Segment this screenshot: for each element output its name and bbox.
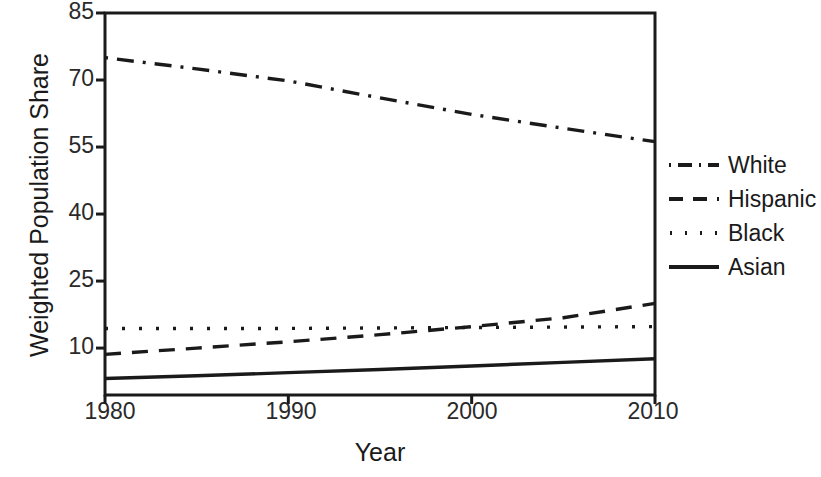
- legend-label: White: [720, 152, 787, 179]
- legend-label: Black: [720, 220, 784, 247]
- series-line-black: [105, 327, 655, 329]
- legend-swatch-dash-dot: [668, 155, 720, 175]
- series-line-white: [105, 58, 655, 142]
- chart-figure: Weighted Population Share Year 85 70 55 …: [0, 0, 821, 477]
- legend-item-asian: Asian: [668, 250, 818, 284]
- data-series-group: [105, 58, 655, 379]
- legend-item-white: White: [668, 148, 818, 182]
- legend-swatch-solid: [668, 257, 720, 277]
- legend-swatch-dotted: [668, 223, 720, 243]
- legend-item-black: Black: [668, 216, 818, 250]
- chart-legend: White Hispanic Black Asian: [668, 148, 818, 284]
- legend-label: Asian: [720, 254, 786, 281]
- axis-frame: [105, 13, 655, 395]
- legend-swatch-dashed: [668, 189, 720, 209]
- series-line-asian: [105, 359, 655, 379]
- legend-label: Hispanic: [720, 186, 816, 213]
- legend-item-hispanic: Hispanic: [668, 182, 818, 216]
